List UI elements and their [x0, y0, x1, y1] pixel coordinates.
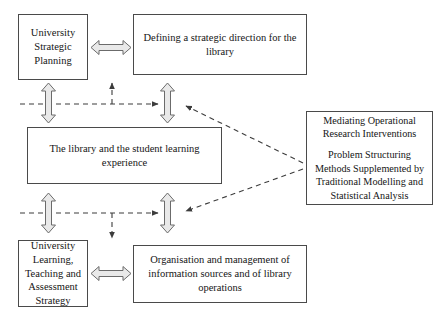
box-line: operations	[198, 282, 242, 293]
box-line: Traditional Modelling and	[316, 176, 423, 187]
box-line: Strategic	[34, 41, 71, 52]
box-line: information sources and of library	[148, 268, 291, 279]
box-line: Assessment	[28, 281, 78, 292]
box-line: The library and the student learning	[49, 143, 199, 154]
box-line: library	[206, 46, 234, 57]
box-line: Defining a strategic direction for the	[143, 32, 296, 43]
double-arrow-library-to-organisation	[159, 192, 176, 234]
box-line: Methods Supplemented by	[315, 163, 424, 174]
box-university-strategic-planning: University Strategic Planning	[18, 14, 88, 80]
paragraph-gap	[315, 141, 424, 149]
box-line: Mediating Operational	[323, 115, 416, 126]
box-line: Learning,	[33, 254, 74, 265]
box-mediating-operational-research-interventions: Mediating Operational Research Intervent…	[306, 111, 433, 205]
box-line: Teaching and	[25, 268, 81, 279]
box-line: experience	[102, 157, 147, 168]
box-line: Organisation and management of	[150, 254, 289, 265]
box-organisation-and-management: Organisation and management of informati…	[133, 245, 307, 303]
box-university-learning-teaching-assessment-strategy: University Learning, Teaching and Assess…	[18, 240, 88, 307]
box-line: Planning	[34, 55, 71, 66]
box-library-and-student-learning-experience: The library and the student learning exp…	[27, 127, 222, 184]
double-arrow-direction-to-library	[159, 82, 176, 124]
box-line: University	[31, 240, 75, 251]
box-line: Research Interventions	[323, 128, 417, 139]
double-arrow-planning-to-direction	[90, 39, 132, 56]
double-arrow-planning-to-library	[40, 82, 57, 124]
double-arrow-learning-to-organisation	[90, 265, 132, 282]
diagram-canvas: University Strategic Planning Defining a…	[0, 0, 447, 321]
box-line: Statistical Analysis	[331, 190, 409, 201]
box-line: Problem Structuring	[328, 149, 411, 160]
box-line: Strategy	[36, 295, 71, 306]
box-defining-strategic-direction: Defining a strategic direction for the l…	[133, 14, 307, 75]
box-line: University	[31, 27, 75, 38]
double-arrow-library-to-learning	[40, 192, 57, 234]
